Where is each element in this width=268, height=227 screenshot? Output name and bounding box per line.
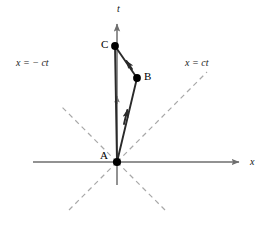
t-axis-label: t	[117, 4, 120, 14]
light-cone-lower-left	[69, 162, 117, 210]
event-point-A	[113, 158, 121, 166]
event-label-B: B	[144, 71, 151, 82]
light-cone-left-label: x = − ct	[16, 58, 49, 68]
event-point-C	[111, 42, 119, 50]
x-axis-label: x	[250, 157, 254, 167]
worldline-segment-A-to-B	[117, 78, 137, 162]
event-label-A: A	[100, 150, 108, 161]
light-cone-upper-right	[117, 72, 207, 162]
worldline-path	[115, 46, 137, 162]
event-point-B	[133, 74, 141, 82]
worldline-segment-B-to-C	[115, 46, 137, 78]
light-cone-upper-left	[60, 105, 117, 162]
axes	[33, 24, 239, 185]
event-label-C: C	[101, 39, 108, 50]
light-cone-right-label: x = ct	[185, 58, 208, 68]
light-cone-lower-right	[117, 162, 165, 210]
spacetime-diagram: t x x = ct x = − ct A B C	[0, 0, 268, 227]
diagram-canvas	[0, 0, 268, 227]
